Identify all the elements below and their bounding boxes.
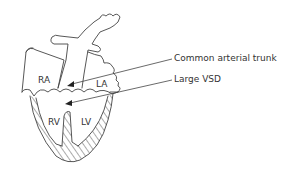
arterial-trunk-outline xyxy=(51,14,120,88)
label-left-atrium: LA xyxy=(96,80,107,89)
leader-line-common-arterial-trunk xyxy=(72,59,172,84)
label-left-ventricle: LV xyxy=(81,118,91,127)
av-boundary xyxy=(22,89,118,96)
label-right-atrium: RA xyxy=(38,76,50,85)
heart-illustration xyxy=(0,0,295,172)
leader-line-large-vsd xyxy=(70,80,172,103)
label-common-arterial-trunk: Common arterial trunk xyxy=(174,54,277,63)
heart-diagram: RA LA RV LV Common arterial trunk Large … xyxy=(0,0,295,172)
right-atrium-outline xyxy=(22,48,64,92)
label-right-ventricle: RV xyxy=(48,118,60,127)
arrowhead-common-arterial-trunk xyxy=(67,81,74,87)
label-large-vsd: Large VSD xyxy=(174,75,221,84)
arrowhead-large-vsd xyxy=(65,100,72,106)
